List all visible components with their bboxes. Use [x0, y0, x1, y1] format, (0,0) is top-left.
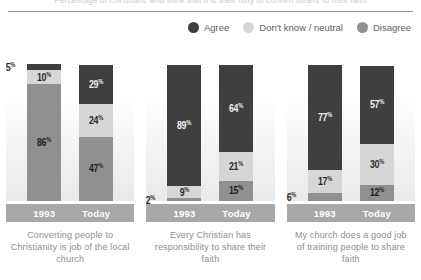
group-caption: Every Christian has responsibility to sh… — [150, 229, 270, 265]
chart-group: 89%9%2%2%64%21%15%1993TodayEvery Christi… — [140, 48, 280, 280]
bar-segment[interactable]: 57% — [360, 66, 394, 144]
bar-segment-callout-label: 5% — [6, 62, 15, 73]
chart-title-clipped: Percentage of Christians who think that … — [0, 0, 421, 5]
chart-group: 5%5%10%86%29%24%47%1993TodayConverting p… — [0, 48, 140, 280]
bar-segment[interactable]: 5% — [27, 64, 61, 71]
stacked-bar[interactable]: 77%17%6%6% — [308, 65, 342, 201]
stacked-bar[interactable]: 29%24%47% — [79, 65, 113, 201]
bar-stack-row: 89%9%2%2%64%21%15% — [146, 48, 274, 201]
x-axis-tick-label: Today — [219, 208, 253, 219]
bar-segment-value-label: 64% — [229, 103, 243, 114]
bar-segment[interactable]: 12% — [360, 185, 394, 201]
bar-segment[interactable]: 64% — [219, 65, 253, 152]
bar-segment[interactable]: 17% — [308, 170, 342, 193]
chart-container: Percentage of Christians who think that … — [0, 0, 421, 280]
stacked-bar[interactable]: 5%5%10%86% — [27, 64, 61, 201]
bar-segment-value-label: 29% — [89, 79, 103, 90]
bar-segment[interactable]: 24% — [79, 104, 113, 137]
chart-group: 77%17%6%6%57%30%12%1993TodayMy church do… — [281, 48, 421, 280]
group-caption: My church does a good job of training pe… — [291, 229, 411, 265]
bar-segment-value-label: 12% — [370, 187, 384, 198]
x-axis-band: 1993Today — [6, 204, 134, 222]
bar-segment-value-label: 47% — [89, 163, 103, 174]
bar-segment-value-label: 86% — [37, 137, 51, 148]
stacked-bar[interactable]: 89%9%2%2% — [167, 65, 201, 201]
bar-segment[interactable]: 47% — [79, 137, 113, 201]
bar-segment-value-label: 57% — [370, 99, 384, 110]
bar-segment[interactable]: 2% — [167, 198, 201, 201]
bar-segment[interactable]: 21% — [219, 152, 253, 181]
circle-swatch-icon — [243, 22, 254, 33]
bar-segment-value-label: 17% — [318, 176, 332, 187]
plot-area: 5%5%10%86%29%24%47% — [6, 48, 134, 201]
bar-segment-value-label: 21% — [229, 161, 243, 172]
bar-segment[interactable]: 89% — [167, 65, 201, 186]
legend-item[interactable]: Agree — [188, 22, 229, 33]
plot-area: 89%9%2%2%64%21%15% — [146, 48, 274, 201]
plot-area: 77%17%6%6%57%30%12% — [287, 48, 415, 201]
chart-legend: AgreeDon't know / neutralDisagree — [0, 22, 421, 33]
chart-groups: 5%5%10%86%29%24%47%1993TodayConverting p… — [0, 48, 421, 280]
bar-segment-value-label: 24% — [89, 115, 103, 126]
x-axis-band: 1993Today — [146, 204, 274, 222]
bar-segment-callout-label: 6% — [286, 192, 295, 203]
x-axis-tick-label: 1993 — [167, 208, 201, 219]
bar-segment[interactable]: 77% — [308, 65, 342, 170]
bar-segment-value-label: 77% — [318, 112, 332, 123]
bar-segment-value-label: 89% — [177, 120, 191, 131]
legend-item[interactable]: Don't know / neutral — [243, 22, 343, 33]
bar-stack-row: 5%5%10%86%29%24%47% — [6, 48, 134, 201]
x-axis-tick-label: Today — [360, 208, 394, 219]
stacked-bar[interactable]: 64%21%15% — [219, 65, 253, 201]
bar-segment[interactable]: 9% — [167, 186, 201, 198]
legend-item-label: Disagree — [373, 22, 411, 33]
bar-segment-value-label: 10% — [37, 72, 51, 83]
bar-segment-value-label: 15% — [229, 185, 243, 196]
x-axis-tick-label: 1993 — [308, 208, 342, 219]
x-axis-band: 1993Today — [287, 204, 415, 222]
bar-segment[interactable]: 86% — [27, 84, 61, 201]
bar-segment[interactable]: 30% — [360, 144, 394, 185]
circle-swatch-icon — [188, 22, 199, 33]
x-axis-tick-label: Today — [79, 208, 113, 219]
legend-item[interactable]: Disagree — [357, 22, 411, 33]
group-caption: Converting people to Christianity is job… — [10, 229, 130, 265]
stacked-bar[interactable]: 57%30%12% — [360, 66, 394, 201]
bar-segment[interactable]: 15% — [219, 181, 253, 201]
bar-segment[interactable]: 29% — [79, 65, 113, 104]
bar-segment-value-label: 9% — [180, 187, 189, 198]
x-axis-tick-label: 1993 — [27, 208, 61, 219]
bar-segment-value-label: 30% — [370, 159, 384, 170]
circle-swatch-icon — [357, 22, 368, 33]
bar-segment[interactable]: 10% — [27, 70, 61, 84]
legend-item-label: Don't know / neutral — [259, 22, 343, 33]
header-divider — [8, 11, 413, 12]
bar-segment[interactable]: 6% — [308, 193, 342, 201]
legend-item-label: Agree — [204, 22, 229, 33]
bar-stack-row: 77%17%6%6%57%30%12% — [287, 48, 415, 201]
